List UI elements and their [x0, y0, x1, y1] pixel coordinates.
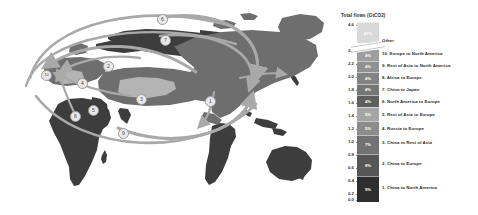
legend-label[interactable]: 10. Europe to North America — [382, 51, 442, 56]
bar-segment-share: 7% — [365, 142, 371, 147]
bar-segment-share: 5% — [365, 126, 371, 131]
world-map-landmasses — [0, 0, 340, 215]
bar-segment-share: 4% — [365, 87, 371, 92]
bar-segment-share: 4% — [365, 99, 371, 104]
y-axis-tick-label: 2.2 — [348, 61, 354, 66]
world-map-panel: 1 2 3 4 5 6 7 8 9 10 — [0, 0, 340, 215]
legend-label[interactable]: 5. Rest of Asia to Europe — [382, 112, 435, 117]
bar-segment[interactable]: 47% — [357, 22, 379, 43]
legend-label[interactable]: 2. China to Europe — [382, 161, 422, 166]
map-marker[interactable]: 4 — [77, 78, 88, 89]
y-axis-tick-label: 0.6 — [348, 165, 354, 170]
y-axis-tick-label: 1.0 — [348, 139, 354, 144]
bar-segment-share: 5% — [365, 112, 371, 117]
legend-label[interactable]: 1. China to North America — [382, 185, 437, 190]
bar-segment[interactable]: 4% — [357, 95, 379, 107]
map-marker[interactable]: 7 — [160, 35, 171, 46]
legend-label-list: Other10. Europe to North America9. Rest … — [382, 22, 478, 204]
bar-segment[interactable]: 4% — [357, 84, 379, 96]
legend-chart-panel: Total flows (GtCO2) 4.62.42.22.01.81.61.… — [336, 0, 478, 215]
bar-segment[interactable]: 7% — [357, 135, 379, 154]
bar-segment-share: 4% — [365, 64, 371, 69]
y-axis-tick-label: 0.4 — [348, 178, 354, 183]
map-marker[interactable]: 1 — [205, 96, 216, 107]
chart-title: Total flows (GtCO2) — [341, 13, 385, 18]
legend-label[interactable]: Other — [382, 38, 394, 43]
bar-segment[interactable]: 4% — [357, 61, 379, 73]
map-marker[interactable]: 10 — [41, 70, 52, 81]
bar-segment-share: 47% — [364, 31, 372, 36]
y-axis-tick-label: 1.6 — [348, 100, 354, 105]
stacked-bar: 47%4%4%4%4%4%5%5%7%8%9% — [357, 22, 379, 204]
y-axis-tick-label: 1.2 — [348, 126, 354, 131]
y-axis-tick-label: 0.0 — [348, 197, 354, 202]
bar-segment-share: 9% — [365, 187, 371, 192]
map-marker[interactable]: 2 — [103, 61, 114, 72]
y-axis-tick-label: 0.2 — [348, 191, 354, 196]
y-axis-tick-label: 4.6 — [348, 22, 354, 27]
map-marker[interactable]: 9 — [118, 128, 129, 139]
bar-segment[interactable]: 5% — [357, 121, 379, 135]
bar-segment-share: 4% — [365, 76, 371, 81]
legend-label[interactable]: 3. China to Rest of Asia — [382, 140, 432, 145]
bar-segment[interactable]: 9% — [357, 176, 379, 202]
bar-segment-share: 4% — [365, 53, 371, 58]
map-marker[interactable]: 6 — [157, 14, 168, 25]
map-marker[interactable]: 8 — [70, 111, 81, 122]
legend-label[interactable]: 7. China to Japan — [382, 87, 419, 92]
figure-root: 1 2 3 4 5 6 7 8 9 10 Total flows (GtCO2)… — [0, 0, 478, 215]
legend-label[interactable]: 4. Russia to Europe — [382, 126, 424, 131]
bar-segment[interactable]: 8% — [357, 154, 379, 176]
y-axis-tick-label: 1.4 — [348, 113, 354, 118]
map-marker[interactable]: 5 — [88, 105, 99, 116]
bar-segment[interactable]: 4% — [357, 72, 379, 84]
bar-segment[interactable]: 5% — [357, 107, 379, 121]
map-marker[interactable]: 3 — [136, 94, 147, 105]
y-axis-tick-label: 1.8 — [348, 87, 354, 92]
y-axis-tick-label: 0.8 — [348, 152, 354, 157]
bar-segment-share: 8% — [365, 163, 371, 168]
legend-label[interactable]: 6. North America to Europe — [382, 99, 440, 104]
legend-label[interactable]: 8. Africa to Europe — [382, 75, 422, 80]
legend-label[interactable]: 9. Rest of Asia to North America — [382, 63, 450, 68]
y-axis-tick-label: 2.0 — [348, 74, 354, 79]
